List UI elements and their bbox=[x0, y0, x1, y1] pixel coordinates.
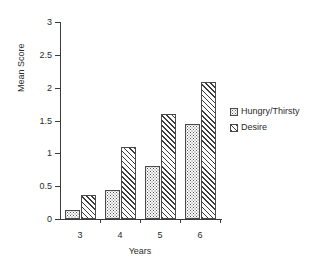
bar-desire-6 bbox=[201, 82, 216, 219]
x-axis-title: Years bbox=[0, 246, 280, 256]
legend-item: Desire bbox=[230, 123, 300, 132]
legend-label: Desire bbox=[241, 123, 267, 132]
bar-hungry-thirsty-4 bbox=[105, 190, 120, 219]
bar-desire-5 bbox=[161, 114, 176, 219]
y-axis-tick bbox=[55, 88, 60, 89]
y-axis-tick-label: 2.5 bbox=[39, 51, 52, 60]
y-axis-tick-label: 0.5 bbox=[39, 182, 52, 191]
legend-label: Hungry/Thirsty bbox=[241, 107, 300, 116]
y-axis-title: Mean Score bbox=[16, 43, 26, 92]
legend-swatch-icon bbox=[230, 108, 238, 116]
x-axis-tick bbox=[100, 219, 101, 223]
x-axis-tick-label: 4 bbox=[117, 231, 122, 240]
chart-legend: Hungry/ThirstyDesire bbox=[230, 107, 300, 139]
bar-hungry-thirsty-5 bbox=[145, 166, 160, 219]
y-axis-tick-label: 2 bbox=[47, 84, 52, 93]
y-axis-tick-label: 1.5 bbox=[39, 117, 52, 126]
y-axis-tick bbox=[55, 153, 60, 154]
y-axis-tick bbox=[55, 186, 60, 187]
x-axis-tick bbox=[220, 219, 221, 223]
bar-desire-4 bbox=[121, 147, 136, 219]
x-axis-tick bbox=[140, 219, 141, 223]
x-axis-tick bbox=[180, 219, 181, 223]
bar-desire-3 bbox=[81, 195, 96, 219]
legend-item: Hungry/Thirsty bbox=[230, 107, 300, 116]
bar-hungry-thirsty-6 bbox=[185, 124, 200, 219]
y-axis-tick-label: 3 bbox=[47, 18, 52, 27]
y-axis-tick bbox=[55, 121, 60, 122]
bar-chart: Mean Score Years 00.511.522.533456 Hungr… bbox=[0, 0, 323, 270]
y-axis-tick bbox=[55, 22, 60, 23]
plot-area: 00.511.522.533456 bbox=[60, 22, 220, 219]
x-axis-line bbox=[60, 219, 222, 220]
bar-hungry-thirsty-3 bbox=[65, 210, 80, 219]
y-axis-tick-label: 0 bbox=[47, 215, 52, 224]
legend-swatch-icon bbox=[230, 124, 238, 132]
y-axis-tick-label: 1 bbox=[47, 149, 52, 158]
x-axis-tick-label: 5 bbox=[157, 231, 162, 240]
x-axis-tick-label: 6 bbox=[197, 231, 202, 240]
y-axis-tick bbox=[55, 219, 60, 220]
y-axis-tick bbox=[55, 55, 60, 56]
x-axis-tick-label: 3 bbox=[77, 231, 82, 240]
